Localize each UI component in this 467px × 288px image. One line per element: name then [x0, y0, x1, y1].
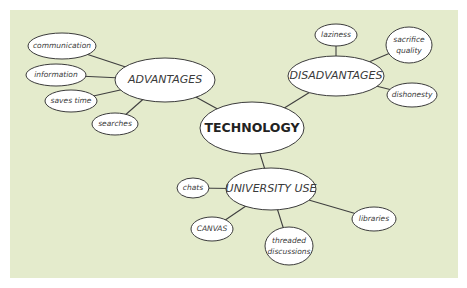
node-sacrifice-quality: sacrificequality: [386, 27, 432, 63]
node-information: information: [26, 64, 86, 86]
node-label: libraries: [359, 214, 389, 223]
node-label: UNIVERSITY USE: [226, 182, 317, 195]
node-label: communication: [33, 41, 91, 50]
node-label: saves time: [51, 96, 92, 105]
node-saves-time: saves time: [45, 90, 97, 112]
nodes: TECHNOLOGYADVANTAGEScommunicationinforma…: [26, 24, 437, 265]
node-canvas: CANVAS: [191, 217, 233, 241]
node-label: information: [34, 70, 78, 79]
node-laziness: laziness: [315, 24, 357, 46]
node-ellipse: [386, 27, 432, 63]
node-chats: chats: [177, 178, 209, 198]
node-label: CANVAS: [197, 224, 228, 233]
node-label: searches: [98, 119, 132, 128]
node-label: dishonesty: [392, 90, 433, 99]
node-label: ADVANTAGES: [127, 73, 202, 86]
node-label: DISADVANTAGES: [290, 69, 383, 82]
node-advantages: ADVANTAGES: [115, 58, 215, 102]
node-searches: searches: [92, 113, 138, 135]
node-label: laziness: [321, 30, 351, 39]
node-ellipse: [265, 227, 313, 265]
node-threaded-discussions: threadeddiscussions: [265, 227, 313, 265]
node-technology: TECHNOLOGY: [200, 102, 304, 154]
node-label: TECHNOLOGY: [205, 120, 301, 135]
node-university-use: UNIVERSITY USE: [226, 168, 317, 210]
node-label: chats: [183, 183, 203, 192]
mind-map: TECHNOLOGYADVANTAGEScommunicationinforma…: [0, 0, 467, 288]
node-dishonesty: dishonesty: [387, 83, 437, 107]
node-disadvantages: DISADVANTAGES: [288, 56, 384, 96]
node-communication: communication: [28, 33, 96, 59]
node-libraries: libraries: [352, 207, 396, 231]
